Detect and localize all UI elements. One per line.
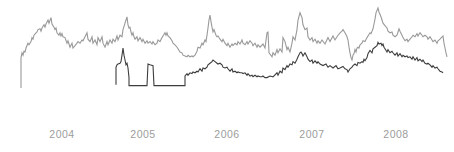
x-axis-label-2006: 2006 <box>214 128 239 140</box>
x-axis-label-2007: 2007 <box>299 128 324 140</box>
x-axis-label-2004: 2004 <box>49 128 74 140</box>
x-axis-label-2008: 2008 <box>383 128 408 140</box>
trend-line-chart: 2004 2005 2006 2007 2008 <box>0 0 454 152</box>
x-axis-label-2005: 2005 <box>130 128 155 140</box>
line-series-gray-line <box>21 8 447 88</box>
x-axis: 2004 2005 2006 2007 2008 <box>0 128 454 144</box>
